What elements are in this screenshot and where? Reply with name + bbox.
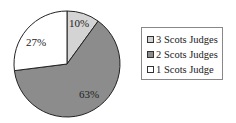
legend-label: 3 Scots Judges (156, 34, 218, 45)
legend-swatch (147, 66, 154, 73)
slice-label-1-judge: 27% (26, 36, 46, 48)
legend-label: 1 Scots Judge (156, 64, 214, 75)
legend-label: 2 Scots Judges (156, 49, 218, 60)
legend-item-3-judges: 3 Scots Judges (147, 32, 222, 47)
chart-legend: 3 Scots Judges 2 Scots Judges 1 Scots Ju… (141, 27, 223, 80)
slice-label-2-judges: 63% (79, 88, 99, 100)
pie-slices (14, 11, 120, 117)
legend-swatch (147, 36, 154, 43)
slice-label-3-judges: 10% (69, 17, 89, 29)
legend-item-2-judges: 2 Scots Judges (147, 47, 222, 62)
legend-item-1-judge: 1 Scots Judge (147, 62, 222, 77)
legend-swatch (147, 51, 154, 58)
